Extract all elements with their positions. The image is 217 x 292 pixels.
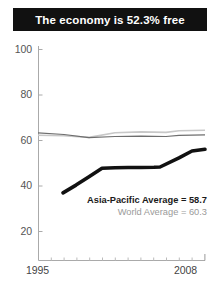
legend-label-world-average: World Average = 60.3 — [118, 207, 207, 217]
series-line-country-score — [63, 149, 205, 193]
y-axis-tick-100: 100 — [4, 43, 32, 55]
chart-plot-area — [0, 0, 217, 292]
legend-label-regional-average: Asia-Pacific Average = 58.7 — [87, 195, 207, 205]
x-axis-tick-2008: 2008 — [174, 264, 197, 276]
freedom-index-chart-card: The economy is 52.3% free — [0, 0, 217, 292]
y-axis-tick-20: 20 — [4, 225, 32, 237]
y-axis-tick-40: 40 — [4, 179, 32, 191]
x-axis-ticks — [51, 254, 205, 261]
y-axis-tick-60: 60 — [4, 134, 32, 146]
y-axis-ticks — [39, 50, 43, 232]
x-axis-tick-1995: 1995 — [26, 264, 49, 276]
y-axis-tick-80: 80 — [4, 88, 32, 100]
